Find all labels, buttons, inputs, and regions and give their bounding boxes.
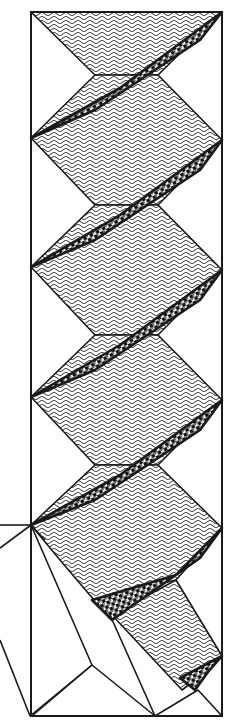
herringbone-panels [31,12,222,690]
herringbone-panel [31,465,222,600]
outline-line [0,525,31,548]
outline-line [92,665,155,716]
outline-line [198,690,222,716]
outline-line [155,690,198,716]
ribbon-artwork [0,0,234,723]
ribbon-illustration [0,0,234,723]
herringbone-panel [31,205,222,335]
herringbone-panel [31,75,222,205]
outline-line [32,665,92,716]
herringbone-panel [31,335,222,465]
outline-line [0,640,30,716]
